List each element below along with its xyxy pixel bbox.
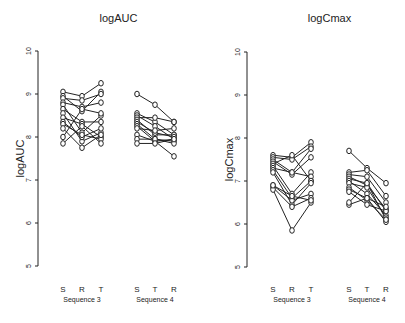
data-point: [309, 180, 314, 186]
data-point: [347, 148, 352, 154]
data-point: [80, 145, 85, 151]
data-point: [290, 170, 295, 176]
chart-title: logCmax: [308, 12, 352, 24]
y-axis-label: logAUC: [14, 139, 26, 177]
data-point: [99, 126, 104, 132]
data-point: [172, 154, 177, 160]
data-point: [290, 228, 295, 234]
group-sequence-4: STRSequence 4: [134, 91, 177, 304]
data-point: [80, 106, 85, 112]
data-point: [153, 128, 158, 134]
y-tick-label: 7: [25, 178, 32, 182]
group-label: Sequence 3: [63, 296, 100, 304]
data-point: [61, 126, 66, 132]
y-tick-label: 8: [25, 135, 32, 139]
data-point: [271, 170, 276, 176]
chart-canvas: logAUC5678910logAUCSRTSequence 3STRSeque…: [0, 0, 405, 323]
data-point: [153, 141, 158, 147]
data-point: [365, 195, 370, 201]
data-point: [290, 152, 295, 158]
data-point: [99, 80, 104, 86]
x-tick-label: S: [270, 285, 275, 294]
data-point: [80, 98, 85, 104]
data-point: [309, 155, 314, 161]
data-point: [153, 102, 158, 108]
data-point: [153, 115, 158, 121]
y-tick-label: 9: [25, 92, 32, 96]
y-tick-label: 5: [234, 265, 241, 269]
x-tick-label: T: [153, 285, 158, 294]
data-point: [309, 146, 314, 152]
group-sequence-3: SRTSequence 3: [60, 80, 103, 304]
y-tick-label: 10: [25, 47, 32, 55]
y-tick-label: 6: [234, 222, 241, 226]
data-point: [271, 183, 276, 189]
y-tick-label: 6: [25, 221, 32, 225]
y-tick-label: 10: [234, 48, 241, 56]
data-point: [365, 180, 370, 186]
y-axis-label: logCmax: [223, 137, 235, 181]
group-label: Sequence 4: [136, 296, 173, 304]
data-point: [365, 202, 370, 208]
data-point: [347, 189, 352, 195]
data-point: [290, 193, 295, 199]
data-point: [61, 141, 66, 147]
data-point: [99, 132, 104, 138]
x-tick-label: S: [346, 285, 351, 294]
group-label: Sequence 4: [348, 296, 385, 304]
x-tick-label: R: [383, 285, 389, 294]
data-point: [290, 204, 295, 210]
x-tick-label: S: [134, 285, 139, 294]
data-point: [99, 141, 104, 147]
data-point: [61, 134, 66, 140]
data-point: [99, 111, 104, 117]
group-sequence-3: SRTSequence 3: [270, 140, 313, 305]
x-tick-label: T: [365, 285, 370, 294]
chart-panel-logcmax: logCmax5678910logCmaxSRTSequence 3STRSeq…: [223, 12, 389, 304]
x-tick-label: T: [99, 285, 104, 294]
data-point: [365, 167, 370, 173]
x-tick-label: S: [60, 285, 65, 294]
x-tick-label: R: [289, 285, 295, 294]
y-tick-label: 5: [25, 264, 32, 268]
y-tick-label: 8: [234, 136, 241, 140]
chart-title: logAUC: [100, 12, 138, 24]
data-point: [309, 198, 314, 204]
group-sequence-4: STRSequence 4: [346, 148, 389, 304]
data-point: [365, 174, 370, 180]
data-point: [172, 119, 177, 125]
data-point: [172, 126, 177, 132]
data-point: [80, 132, 85, 138]
chart-figure: logAUC5678910logAUCSRTSequence 3STRSeque…: [0, 0, 405, 323]
data-point: [384, 180, 389, 186]
data-point: [172, 136, 177, 142]
x-tick-label: R: [171, 285, 177, 294]
data-point: [99, 119, 104, 125]
chart-panel-logauc: logAUC5678910logAUCSRTSequence 3STRSeque…: [14, 12, 177, 304]
data-point: [99, 100, 104, 106]
data-point: [135, 126, 140, 132]
x-tick-label: R: [79, 285, 85, 294]
data-point: [347, 200, 352, 206]
data-point: [135, 91, 140, 97]
group-label: Sequence 3: [273, 296, 310, 304]
data-point: [384, 217, 389, 223]
x-tick-label: T: [309, 285, 314, 294]
data-point: [384, 204, 389, 210]
data-point: [80, 123, 85, 129]
data-point: [135, 141, 140, 147]
data-point: [99, 91, 104, 97]
data-point: [384, 193, 389, 199]
y-tick-label: 7: [234, 179, 241, 183]
y-tick-label: 9: [234, 93, 241, 97]
